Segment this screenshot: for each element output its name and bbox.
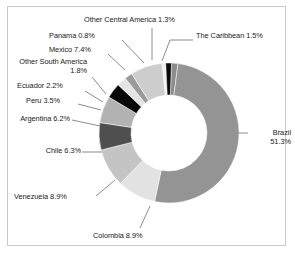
slice-label-other-central-america: Other Central America 1.3% (84, 15, 175, 24)
donut-slices (99, 63, 239, 203)
slice-label-caribbean: The Caribbean 1.5% (196, 31, 263, 40)
slice-label-argentina: Argentina 6.2% (13, 114, 70, 123)
pie-chart-figure: Other Central America 1.3% The Caribbean… (0, 0, 295, 255)
slice-label-peru: Peru 3.5% (26, 96, 60, 105)
leader-mexico (108, 54, 125, 70)
slice-label-ecuador: Ecuador 2.2% (17, 81, 63, 90)
leader-venezuela (96, 180, 115, 196)
slice-label-chile: Chile 6.3% (41, 146, 81, 155)
leader-ecuador (85, 91, 103, 102)
leader-panama (122, 40, 144, 63)
leader-peru (78, 104, 101, 110)
slice-label-panama: Panama 0.8% (49, 31, 95, 40)
leader-colombia (140, 206, 150, 228)
slice-label-venezuela: Venezuela 8.9% (14, 192, 67, 201)
leader-argentina (72, 120, 100, 126)
slice-label-mexico: Mexico 7.4% (49, 45, 91, 54)
leader-other-south-america (92, 77, 106, 94)
slice-label-brazil: Brazil 51.3% (251, 128, 291, 146)
slice-label-colombia: Colombia 8.9% (93, 231, 142, 240)
leader-caribbean (162, 40, 193, 61)
slice-label-other-south-america: Other South America 1.8% (13, 57, 87, 75)
